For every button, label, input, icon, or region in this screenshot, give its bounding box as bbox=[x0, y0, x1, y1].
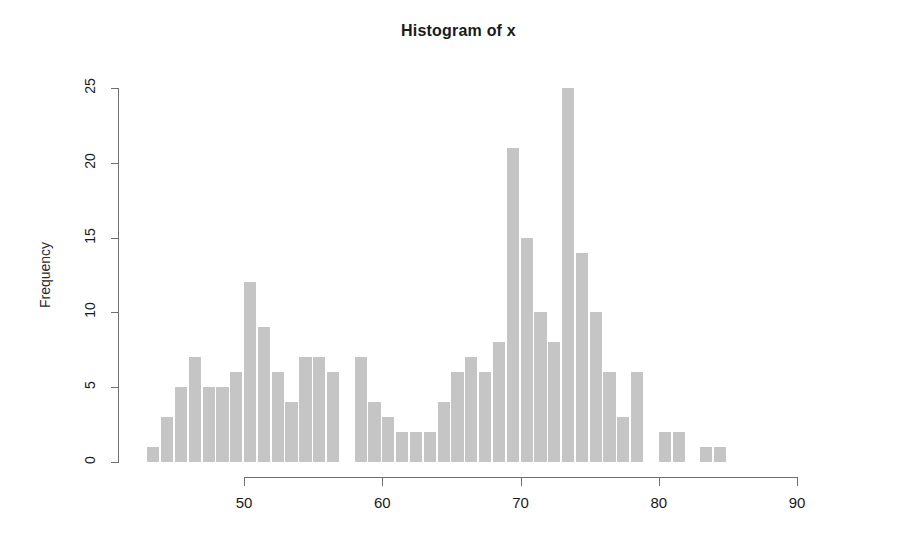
histogram-bar bbox=[410, 432, 422, 462]
histogram-bar bbox=[355, 357, 367, 462]
y-axis-tick-label: 15 bbox=[78, 228, 102, 248]
histogram-bar bbox=[617, 417, 629, 462]
histogram-bar bbox=[562, 88, 574, 462]
histogram-bar bbox=[451, 372, 463, 462]
y-axis-tick-label: 25 bbox=[78, 78, 102, 98]
histogram-bar bbox=[175, 387, 187, 462]
histogram-bar bbox=[382, 417, 394, 462]
histogram-bar bbox=[244, 282, 256, 462]
histogram-bar bbox=[493, 342, 505, 462]
histogram-bar bbox=[203, 387, 215, 462]
histogram-bar bbox=[590, 312, 602, 462]
histogram-bar bbox=[465, 357, 477, 462]
y-axis-tick bbox=[111, 462, 119, 463]
histogram-bar bbox=[216, 387, 228, 462]
y-axis-tick-label: 0 bbox=[78, 452, 102, 472]
histogram-bar bbox=[603, 372, 615, 462]
y-axis-tick bbox=[111, 312, 119, 313]
histogram-bar bbox=[396, 432, 408, 462]
histogram-bar bbox=[534, 312, 546, 462]
histogram-bar bbox=[673, 432, 685, 462]
histogram-bar bbox=[479, 372, 491, 462]
histogram-bar bbox=[659, 432, 671, 462]
y-axis-tick bbox=[111, 238, 119, 239]
x-axis-tick bbox=[244, 477, 245, 486]
x-axis-tick-label: 50 bbox=[219, 494, 269, 511]
histogram-bar bbox=[576, 253, 588, 462]
histogram-bar bbox=[299, 357, 311, 462]
histogram-bar bbox=[258, 327, 270, 462]
x-axis-tick-label: 70 bbox=[496, 494, 546, 511]
y-axis-tick bbox=[111, 387, 119, 388]
histogram-bar bbox=[714, 447, 726, 462]
histogram-bar bbox=[521, 238, 533, 462]
x-axis-tick-label: 80 bbox=[634, 494, 684, 511]
histogram-bar bbox=[424, 432, 436, 462]
histogram-bar bbox=[507, 148, 519, 462]
x-axis-tick bbox=[521, 477, 522, 486]
histogram-bar bbox=[161, 417, 173, 462]
histogram-bar bbox=[189, 357, 201, 462]
histogram-bar bbox=[438, 402, 450, 462]
histogram-plot: Histogram of x Frequency 051015202550607… bbox=[0, 0, 917, 557]
histogram-bar bbox=[272, 372, 284, 462]
x-axis-tick-label: 90 bbox=[772, 494, 822, 511]
x-axis-tick-label: 60 bbox=[357, 494, 407, 511]
y-axis-line bbox=[118, 88, 119, 462]
y-axis-tick-label: 10 bbox=[78, 302, 102, 322]
histogram-bar bbox=[313, 357, 325, 462]
histogram-bar bbox=[700, 447, 712, 462]
y-axis-tick bbox=[111, 163, 119, 164]
y-axis-tick-label: 20 bbox=[78, 153, 102, 173]
histogram-bar bbox=[327, 372, 339, 462]
x-axis-tick bbox=[797, 477, 798, 486]
x-axis-tick bbox=[659, 477, 660, 486]
plot-area: 05101520255060708090 bbox=[0, 0, 917, 557]
histogram-bar bbox=[631, 372, 643, 462]
y-axis-tick-label: 5 bbox=[78, 377, 102, 397]
histogram-bar bbox=[230, 372, 242, 462]
histogram-bar bbox=[147, 447, 159, 462]
histogram-bar bbox=[368, 402, 380, 462]
y-axis-tick bbox=[111, 88, 119, 89]
histogram-bar bbox=[285, 402, 297, 462]
x-axis-tick bbox=[382, 477, 383, 486]
histogram-bar bbox=[548, 342, 560, 462]
